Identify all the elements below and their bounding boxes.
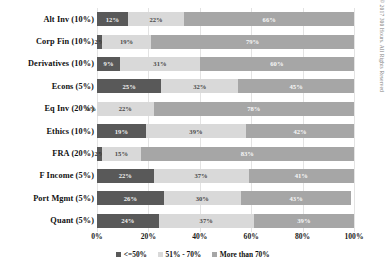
copyright-text: Copyright © 2017 300 Hours. All Rights R… <box>379 0 385 92</box>
segment-value-label: 22% <box>119 172 132 179</box>
bar-segment: 79% <box>151 35 354 49</box>
legend-label: More than 70% <box>220 250 270 259</box>
bar-segment: 83% <box>141 147 354 161</box>
bar-segment: 30% <box>164 191 241 205</box>
category-label: Derivatives (10%) <box>0 59 97 68</box>
bar-track: 19%39%42% <box>97 124 354 138</box>
bar-track: 0%22%78% <box>97 102 354 116</box>
bar-segment: 26% <box>97 191 164 205</box>
legend-label: <=50% <box>124 250 147 259</box>
bar-segment: 37% <box>154 169 249 183</box>
segment-value-label: 9% <box>104 60 114 67</box>
bar-segment: 32% <box>161 79 238 93</box>
bar-track: 2%15%83% <box>97 147 354 161</box>
bar-row: Corp Fin (10%)2%19%79% <box>0 30 386 52</box>
stacked-bar-chart: Alt Inv (10%)12%22%66%Corp Fin (10%)2%19… <box>0 0 386 276</box>
x-axis: 0%20%40%60%80%100% <box>97 232 354 244</box>
bar-segment: 15% <box>102 147 141 161</box>
bar-segment: 60% <box>200 57 354 71</box>
bar-segment: 25% <box>97 79 161 93</box>
segment-value-label: 32% <box>193 83 206 90</box>
segment-value-label: 41% <box>295 172 308 179</box>
x-axis-tick-label: 100% <box>345 232 364 241</box>
bar-segment: 19% <box>102 35 151 49</box>
segment-value-label: 37% <box>200 217 213 224</box>
bar-row: Econs (5%)25%32%45% <box>0 75 386 97</box>
plot-area: Alt Inv (10%)12%22%66%Corp Fin (10%)2%19… <box>0 8 386 232</box>
bar-segment: 12% <box>97 12 128 26</box>
segment-value-label: 39% <box>189 128 202 135</box>
segment-value-label: 24% <box>121 217 134 224</box>
x-axis-tick-label: 60% <box>244 232 259 241</box>
bar-row: F Income (5%)22%37%41% <box>0 165 386 187</box>
bar-segment: 42% <box>246 124 354 138</box>
bar-row: Port Mgmt (5%)26%30%43% <box>0 187 386 209</box>
legend-item[interactable]: <=50% <box>116 250 147 259</box>
bar-track: 2%19%79% <box>97 35 354 49</box>
legend-swatch-icon <box>116 252 121 257</box>
legend-item[interactable]: More than 70% <box>212 250 269 259</box>
segment-value-label: 15% <box>115 150 128 157</box>
bar-segment: 19% <box>97 124 146 138</box>
bar-track: 9%31%60% <box>97 57 354 71</box>
segment-value-label: 19% <box>120 38 133 45</box>
category-label: Quant (5%) <box>0 216 97 225</box>
segment-value-label: 83% <box>241 150 254 157</box>
bar-row: FRA (20%)2%15%83% <box>0 142 386 164</box>
legend-label: 51% - 70% <box>166 250 202 259</box>
legend-swatch-icon <box>158 252 163 257</box>
category-label: Econs (5%) <box>0 82 97 91</box>
category-label: Alt Inv (10%) <box>0 15 97 24</box>
segment-value-label: 22% <box>119 105 132 112</box>
bar-segment: 78% <box>154 102 354 116</box>
segment-value-label: 25% <box>123 83 136 90</box>
segment-value-label: 78% <box>247 105 260 112</box>
bar-track: 24%37%39% <box>97 214 354 228</box>
category-label: Corp Fin (10%) <box>0 37 97 46</box>
segment-value-label: 12% <box>106 16 119 23</box>
x-axis-tick-label: 80% <box>295 232 310 241</box>
segment-value-label: 43% <box>290 195 303 202</box>
x-axis-tick-label: 20% <box>141 232 156 241</box>
bar-segment: 31% <box>120 57 200 71</box>
legend-item[interactable]: 51% - 70% <box>158 250 201 259</box>
bar-segment: 43% <box>241 191 352 205</box>
segment-value-label: 66% <box>263 16 276 23</box>
bar-segment: 24% <box>97 214 159 228</box>
bar-row: Derivatives (10%)9%31%60% <box>0 53 386 75</box>
category-label: Port Mgmt (5%) <box>0 194 97 203</box>
segment-value-label: 39% <box>297 217 310 224</box>
segment-value-label: 31% <box>153 60 166 67</box>
segment-value-label: 19% <box>115 128 128 135</box>
segment-value-label: 0% <box>86 105 96 112</box>
bar-segment: 22% <box>97 102 154 116</box>
legend-swatch-icon <box>212 252 217 257</box>
bar-segment: 39% <box>146 124 246 138</box>
bar-row: Quant (5%)24%37%39% <box>0 210 386 232</box>
category-label: Eq Inv (20%) <box>0 104 97 113</box>
category-label: F Income (5%) <box>0 171 97 180</box>
bar-segment: 9% <box>97 57 120 71</box>
bar-track: 25%32%45% <box>97 79 354 93</box>
chart-legend: <=50%51% - 70%More than 70% <box>0 250 386 259</box>
bar-segment: 66% <box>184 12 354 26</box>
bar-segment: 22% <box>97 169 154 183</box>
category-label: FRA (20%) <box>0 149 97 158</box>
segment-value-label: 37% <box>194 172 207 179</box>
bar-row: Eq Inv (20%)0%22%78% <box>0 98 386 120</box>
segment-value-label: 42% <box>293 128 306 135</box>
x-axis-tick-label: 40% <box>192 232 207 241</box>
bar-segment: 22% <box>128 12 185 26</box>
x-axis-tick-label: 0% <box>91 232 102 241</box>
bar-row: Alt Inv (10%)12%22%66% <box>0 8 386 30</box>
segment-value-label: 79% <box>246 38 259 45</box>
bar-track: 22%37%41% <box>97 169 354 183</box>
bar-track: 12%22%66% <box>97 12 354 26</box>
segment-value-label: 45% <box>290 83 303 90</box>
bar-track: 26%30%43% <box>97 191 354 205</box>
category-label: Ethics (10%) <box>0 127 97 136</box>
segment-value-label: 22% <box>150 16 163 23</box>
bar-rows: Alt Inv (10%)12%22%66%Corp Fin (10%)2%19… <box>0 8 386 232</box>
segment-value-label: 26% <box>124 195 137 202</box>
segment-value-label: 30% <box>196 195 209 202</box>
